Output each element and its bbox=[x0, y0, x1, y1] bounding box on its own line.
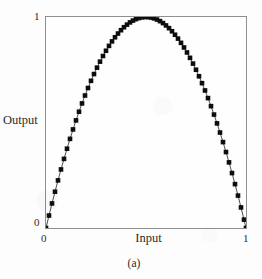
plot-area bbox=[45, 16, 247, 229]
plot-canvas bbox=[46, 17, 246, 228]
data-point-marker bbox=[104, 48, 109, 53]
data-point-marker bbox=[50, 201, 55, 206]
data-point-marker bbox=[89, 79, 94, 84]
series-markers bbox=[46, 17, 246, 228]
data-point-marker bbox=[215, 121, 220, 126]
data-point-marker bbox=[56, 178, 61, 183]
data-point-marker bbox=[74, 118, 79, 123]
figure-caption: (a) bbox=[0, 257, 262, 269]
data-point-marker bbox=[47, 213, 52, 218]
data-point-marker bbox=[239, 205, 244, 210]
data-point-marker bbox=[185, 50, 190, 55]
data-point-marker bbox=[206, 96, 211, 101]
y-axis-label: Output bbox=[3, 114, 38, 127]
data-point-marker bbox=[65, 146, 70, 151]
data-point-marker bbox=[107, 44, 112, 49]
data-point-marker bbox=[101, 54, 106, 59]
data-point-marker bbox=[71, 127, 76, 132]
data-point-marker bbox=[242, 217, 246, 222]
data-point-marker bbox=[233, 182, 238, 187]
data-point-marker bbox=[197, 74, 202, 79]
x-axis-tick-label-max: 1 bbox=[243, 233, 249, 244]
data-point-marker bbox=[221, 140, 226, 145]
data-point-marker bbox=[236, 193, 241, 198]
data-point-marker bbox=[68, 137, 73, 142]
data-point-marker bbox=[230, 171, 235, 176]
data-point-marker bbox=[86, 86, 91, 91]
data-point-marker bbox=[59, 167, 64, 172]
data-point-marker bbox=[227, 160, 232, 165]
data-point-marker bbox=[92, 72, 97, 77]
data-point-marker bbox=[191, 61, 196, 66]
data-point-marker bbox=[194, 67, 199, 72]
x-axis-label: Input bbox=[0, 232, 262, 245]
data-point-marker bbox=[95, 65, 100, 70]
y-axis-tick-label-min: 0 bbox=[34, 217, 40, 228]
y-axis-tick-label-max: 1 bbox=[34, 11, 40, 22]
data-point-marker bbox=[224, 150, 229, 155]
x-axis-tick-label-min: 0 bbox=[41, 233, 47, 244]
data-point-marker bbox=[182, 45, 187, 50]
data-point-marker bbox=[203, 88, 208, 93]
data-point-marker bbox=[212, 112, 217, 117]
data-point-marker bbox=[209, 104, 214, 109]
data-point-marker bbox=[244, 226, 246, 228]
data-point-marker bbox=[179, 41, 184, 46]
data-point-marker bbox=[46, 226, 48, 228]
figure-container: Output Input 1 0 0 1 (a) bbox=[0, 0, 262, 279]
data-point-marker bbox=[200, 81, 205, 86]
data-point-marker bbox=[62, 157, 67, 162]
data-point-marker bbox=[77, 109, 82, 114]
data-point-marker bbox=[218, 130, 223, 135]
data-point-marker bbox=[83, 93, 88, 98]
data-point-marker bbox=[98, 59, 103, 64]
data-point-marker bbox=[188, 56, 193, 61]
data-point-marker bbox=[110, 39, 115, 44]
data-point-marker bbox=[53, 189, 58, 194]
data-point-marker bbox=[176, 36, 181, 41]
data-point-marker bbox=[80, 101, 85, 106]
